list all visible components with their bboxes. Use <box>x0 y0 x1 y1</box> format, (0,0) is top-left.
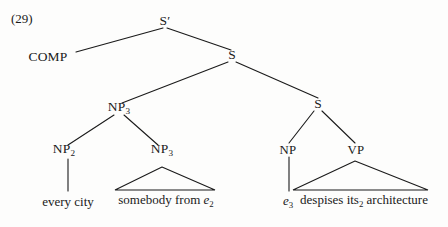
triangle-vp <box>293 161 428 190</box>
node-np-left: NP2 <box>53 142 75 158</box>
node-np-right: NP3 <box>151 142 173 158</box>
node-comp: COMP <box>28 50 67 64</box>
node-np-upper: NP3 <box>108 100 130 116</box>
node-vp: VP <box>348 144 365 157</box>
branch-sembedded-np <box>289 111 314 143</box>
terminal-predicate: despises its2 architecture <box>300 193 428 208</box>
triangle-np3 <box>115 167 215 190</box>
terminal-trace-subject: e3 <box>283 194 293 209</box>
branch-s-sembedded <box>236 62 318 98</box>
terminal-somebody-from: somebody from e2 <box>118 193 213 208</box>
node-s-embedded: S <box>314 97 322 111</box>
terminal-every-city: every city <box>42 195 94 208</box>
branch-np3-np2 <box>68 115 114 145</box>
node-np-subject: NP <box>280 144 297 157</box>
branch-sbar-comp <box>76 28 163 52</box>
branch-sbar-s <box>167 28 231 50</box>
syntax-tree-figure: (29) S′ C <box>0 0 448 227</box>
node-s-main: S <box>228 48 236 62</box>
branch-s-np3 <box>122 62 228 103</box>
branch-sembedded-vp <box>322 111 355 143</box>
node-s-bar: S′ <box>160 14 171 28</box>
